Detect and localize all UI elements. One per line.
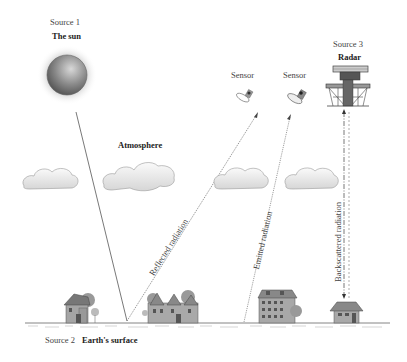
radar-tower-icon (326, 66, 370, 106)
source1-label: Source 1 (50, 17, 80, 27)
arrowhead-icon (287, 114, 291, 120)
radar-label: Radar (338, 52, 361, 62)
cloud-icon (214, 168, 268, 189)
cloud-icon (103, 163, 174, 191)
backscattered-radiation-line (342, 109, 349, 299)
building-icon (258, 290, 302, 323)
earth-surface-label: Earth's surface (82, 335, 137, 345)
ground-line (25, 323, 390, 327)
sun-label: The sun (52, 31, 81, 41)
source3-label: Source 3 (333, 39, 363, 49)
house-icon (64, 293, 99, 323)
house-icon (330, 302, 363, 323)
backscattered-radiation-label: Backscattered radiation (333, 202, 343, 282)
house-icon (142, 290, 198, 323)
atmosphere-label: Atmosphere (118, 140, 162, 150)
arrowhead-icon (254, 112, 258, 118)
sensor1-label: Sensor (231, 70, 254, 80)
source2-label: Source 2 (45, 335, 75, 345)
sensor-satellite-icon (286, 90, 306, 106)
sun-icon (37, 45, 97, 105)
sensor-satellite-icon (235, 89, 253, 103)
sensor2-label: Sensor (283, 70, 306, 80)
cloud-icon (285, 168, 338, 189)
cloud-icon (23, 168, 78, 189)
